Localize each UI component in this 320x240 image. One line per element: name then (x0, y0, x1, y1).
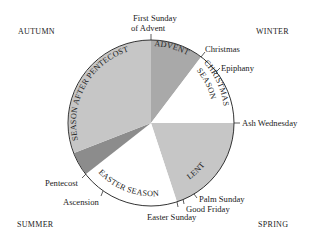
label-first-sunday: First Sunday (133, 13, 177, 23)
label-easter-sunday: Easter Sunday (147, 212, 197, 222)
quarter-autumn: AUTUMN (18, 27, 55, 36)
liturgical-wheel-diagram: AUTUMN WINTER SUMMER SPRING First Sunday… (0, 0, 320, 240)
label-pentecost: Pentecost (45, 178, 79, 188)
quarter-summer: SUMMER (17, 220, 54, 229)
label-of-advent: of Advent (131, 23, 166, 33)
quarter-winter: WINTER (256, 27, 289, 36)
label-ash-wednesday: Ash Wednesday (242, 118, 298, 128)
label-christmas: Christmas (205, 44, 241, 54)
label-ascension: Ascension (63, 197, 100, 207)
label-palm-sunday: Palm Sunday (199, 194, 245, 204)
quarter-spring: SPRING (258, 220, 288, 229)
label-epiphany: Epiphany (221, 63, 255, 73)
